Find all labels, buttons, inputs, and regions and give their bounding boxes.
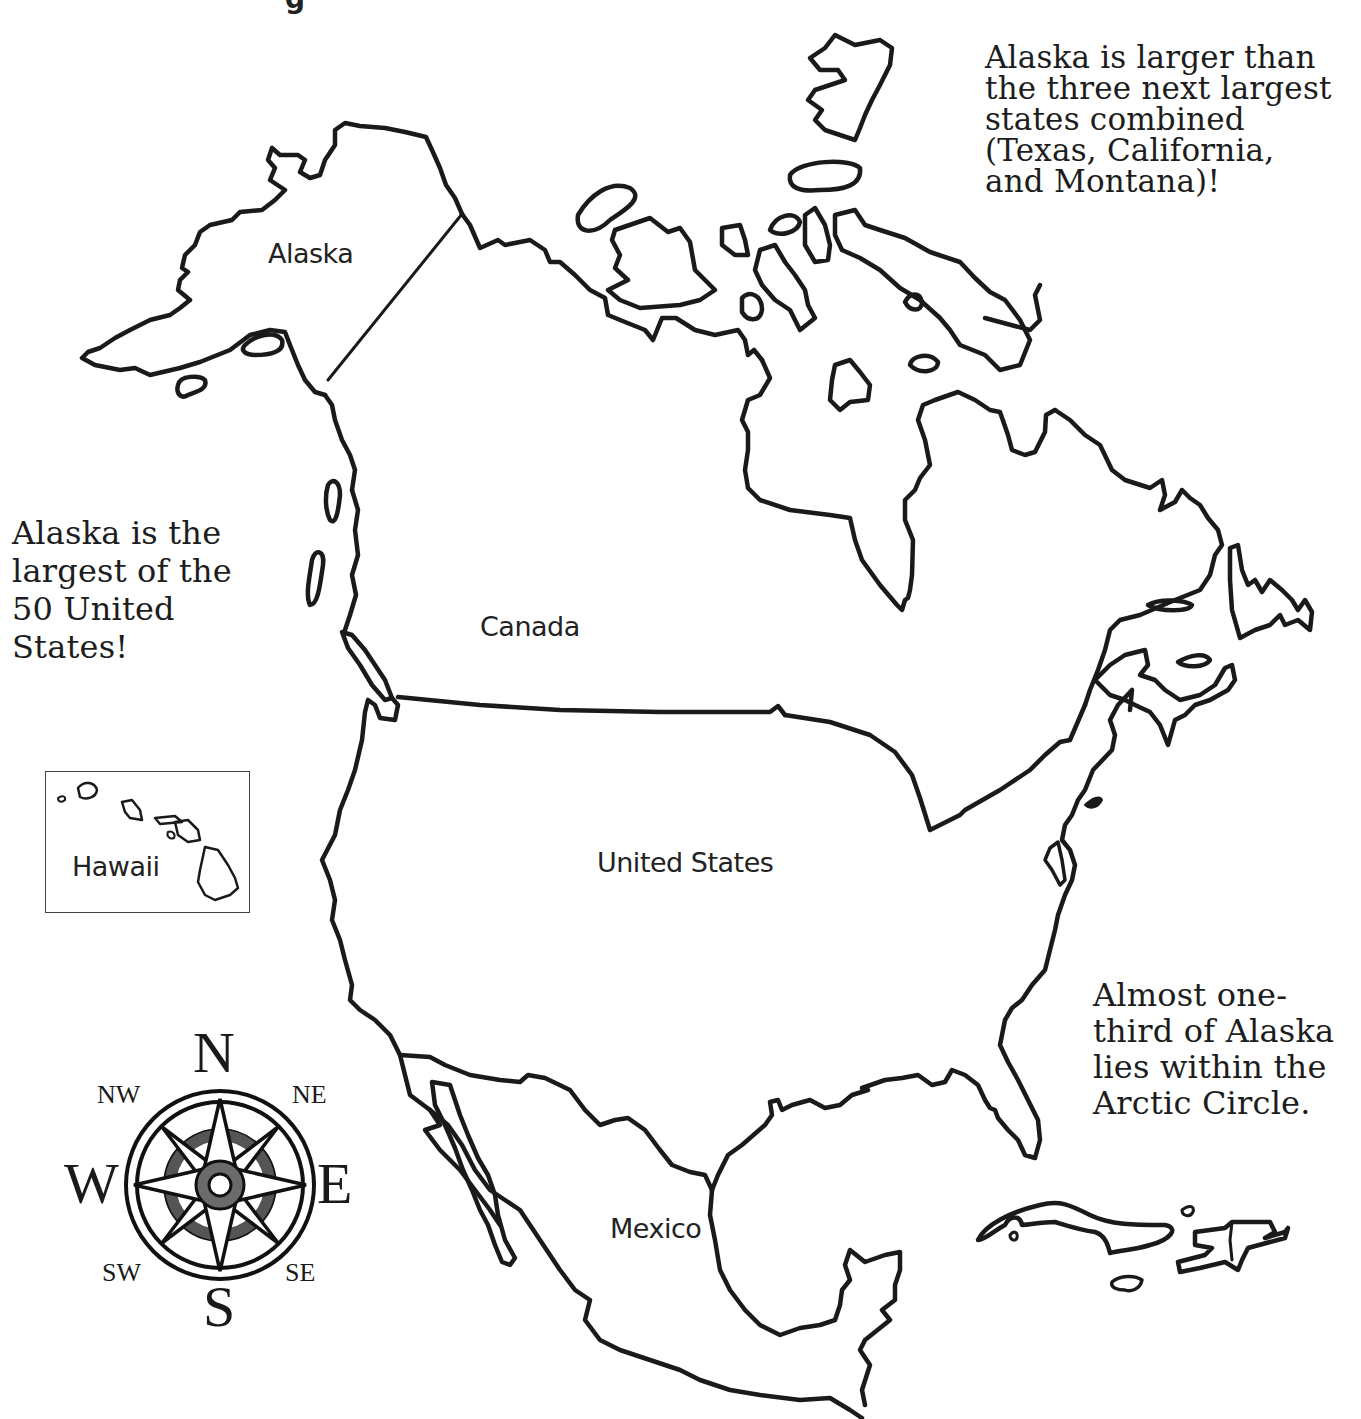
compass-ne: NE: [292, 1082, 327, 1108]
label-hawaii: Hawaii: [72, 853, 159, 881]
chesapeake: [1045, 842, 1065, 885]
hispaniola: [1178, 1222, 1288, 1272]
compass-n: N: [193, 1024, 235, 1082]
haiti-dr-border: [1230, 1222, 1232, 1260]
great-lakes-border: [785, 705, 1085, 830]
arctic-island: [722, 225, 748, 255]
bc-island: [308, 552, 323, 605]
arctic-island: [742, 294, 762, 319]
arctic-island: [790, 162, 860, 191]
arctic-island: [755, 245, 815, 330]
bahamas-islet: [1182, 1206, 1193, 1215]
arctic-island: [910, 356, 938, 371]
us-pacific-coast: [322, 698, 400, 1055]
bc-coast: [345, 490, 358, 630]
hawaii-inset: [45, 771, 250, 913]
label-united-states: United States: [597, 849, 773, 877]
cuba-islet: [1010, 1232, 1017, 1240]
mexico-west-coast: [430, 1110, 862, 1418]
bc-island: [326, 481, 340, 521]
arctic-island: [770, 215, 800, 233]
compass-nw: NW: [97, 1082, 140, 1108]
alaska-island: [177, 377, 205, 397]
label-mexico: Mexico: [610, 1215, 701, 1243]
maritimes: [1095, 650, 1235, 745]
southampton-island: [830, 360, 870, 410]
fact-alaska-largest: Alaska is the largest of the 50 United S…: [12, 514, 232, 666]
us-gulf-coast: [712, 690, 1132, 1190]
anticosti-island: [1148, 600, 1192, 610]
newfoundland: [1230, 545, 1312, 638]
long-island: [1085, 798, 1102, 808]
compass-w: W: [64, 1155, 119, 1213]
compass-e: E: [317, 1155, 352, 1213]
labrador-coast: [1055, 410, 1222, 705]
fact-alaska-larger-than-three: Alaska is larger than the three next lar…: [985, 42, 1332, 197]
compass-s: S: [203, 1278, 235, 1336]
compass-se: SE: [285, 1260, 315, 1286]
arctic-island: [835, 210, 1030, 370]
cuba: [978, 1203, 1172, 1253]
jamaica: [1112, 1276, 1142, 1290]
canada-us-border: [398, 697, 785, 715]
ellesmere-island: [808, 35, 892, 140]
arctic-island: [608, 218, 715, 308]
label-canada: Canada: [480, 613, 580, 641]
compass-rose-icon: [120, 1085, 320, 1285]
arctic-island: [805, 208, 830, 262]
compass-sw: SW: [102, 1260, 141, 1286]
mexico-gulf-coast: [710, 1190, 900, 1405]
vancouver-island: [342, 632, 392, 700]
baja-california: [432, 1082, 515, 1265]
fact-arctic-circle: Almost one- third of Alaska lies within …: [1093, 977, 1334, 1121]
hudson-bay-west: [742, 360, 1055, 610]
pei-island: [1178, 655, 1210, 666]
label-alaska: Alaska: [268, 240, 353, 268]
alaska-panhandle: [325, 395, 355, 490]
